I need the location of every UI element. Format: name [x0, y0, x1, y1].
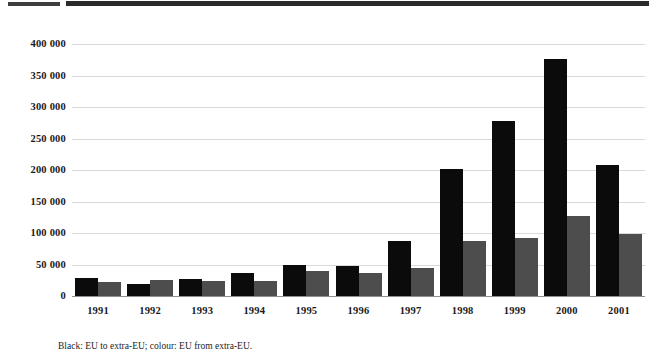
- x-axis-tick-label: 1998: [437, 306, 489, 317]
- y-axis-tick-label: 200 000: [0, 165, 66, 176]
- bar-group: [544, 44, 590, 296]
- x-axis-tick-label: 1991: [72, 306, 124, 317]
- bar-eu-to-extra-eu: [336, 266, 359, 296]
- bar-eu-from-extra-eu: [619, 234, 642, 296]
- bar-eu-from-extra-eu: [515, 238, 538, 296]
- x-axis-tick-label: 1993: [176, 306, 228, 317]
- bar-group: [336, 44, 382, 296]
- bar-eu-from-extra-eu: [306, 271, 329, 296]
- y-axis-tick-label: 350 000: [0, 71, 66, 82]
- y-axis-tick-label: 250 000: [0, 134, 66, 145]
- bar-eu-to-extra-eu: [231, 273, 254, 296]
- bar-eu-from-extra-eu: [567, 216, 590, 296]
- y-axis-tick-label: 300 000: [0, 102, 66, 113]
- bar-eu-to-extra-eu: [440, 169, 463, 296]
- y-axis-tick-label: 150 000: [0, 197, 66, 208]
- y-axis-tick-label: 100 000: [0, 228, 66, 239]
- x-axis-tick-label: 2001: [593, 306, 645, 317]
- bar-eu-to-extra-eu: [492, 121, 515, 296]
- bar-eu-to-extra-eu: [544, 59, 567, 297]
- y-axis-tick-label: 400 000: [0, 39, 66, 50]
- bar-eu-to-extra-eu: [75, 278, 98, 296]
- bar-eu-from-extra-eu: [202, 281, 225, 296]
- bar-group: [440, 44, 486, 296]
- x-axis-tick-label: 1996: [332, 306, 384, 317]
- bar-eu-from-extra-eu: [411, 268, 434, 296]
- x-axis-tick-label: 1999: [489, 306, 541, 317]
- bar-eu-to-extra-eu: [179, 279, 202, 296]
- bar-eu-to-extra-eu: [283, 265, 306, 296]
- gridline-0: [72, 296, 645, 297]
- bar-eu-to-extra-eu: [388, 241, 411, 296]
- bar-group: [179, 44, 225, 296]
- x-axis-tick-label: 1997: [385, 306, 437, 317]
- x-axis-tick-label: 1994: [228, 306, 280, 317]
- bar-group: [388, 44, 434, 296]
- bar-group: [75, 44, 121, 296]
- bar-eu-from-extra-eu: [359, 273, 382, 296]
- bar-eu-from-extra-eu: [150, 280, 173, 296]
- bar-group: [596, 44, 642, 296]
- bar-group: [283, 44, 329, 296]
- bar-eu-from-extra-eu: [254, 281, 277, 296]
- bar-eu-to-extra-eu: [127, 284, 150, 296]
- bar-eu-from-extra-eu: [463, 241, 486, 296]
- bar-group: [231, 44, 277, 296]
- bar-group: [492, 44, 538, 296]
- y-axis-tick-label: 50 000: [0, 260, 66, 271]
- bar-eu-to-extra-eu: [596, 165, 619, 296]
- bar-group: [127, 44, 173, 296]
- chart-caption: Black: EU to extra-EU; colour: EU from e…: [58, 341, 252, 351]
- bar-eu-from-extra-eu: [98, 282, 121, 296]
- x-axis-tick-label: 2000: [541, 306, 593, 317]
- x-axis-tick-label: 1992: [124, 306, 176, 317]
- bar-chart: 050 000100 000150 000200 000250 000300 0…: [0, 0, 649, 363]
- y-axis-tick-label: 0: [0, 291, 66, 302]
- x-axis-tick-label: 1995: [280, 306, 332, 317]
